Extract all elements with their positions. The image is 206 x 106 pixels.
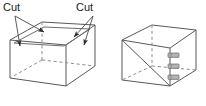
hinge-icon	[168, 64, 179, 68]
cut-label-right: Cut	[76, 1, 93, 13]
right-cut-leaders	[74, 16, 93, 45]
hinge-icon	[168, 53, 179, 57]
figure-container: Cut Cut	[0, 0, 206, 106]
left-box-hidden-edges	[10, 22, 95, 78]
right-box-group	[122, 25, 196, 86]
diagram-svg	[0, 0, 206, 106]
hinge-icon	[168, 75, 179, 79]
left-box-bottom-edges	[10, 66, 95, 86]
right-box-top-face	[122, 25, 196, 48]
right-box-hidden-edges	[122, 25, 196, 80]
hinge-group	[168, 53, 179, 79]
right-box-vertical-edges	[122, 30, 196, 86]
cut-label-left: Cut	[3, 1, 20, 13]
left-box-inner-rim	[14, 27, 90, 46]
right-box-bottom-edges	[122, 70, 196, 86]
left-box-group	[10, 16, 95, 86]
